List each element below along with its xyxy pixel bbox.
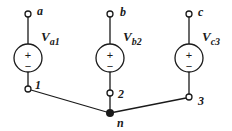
minus-sign-a: − bbox=[25, 60, 31, 72]
neutral-label: n bbox=[117, 116, 124, 130]
terminal-label-c: c bbox=[198, 5, 204, 19]
minus-sign-b: − bbox=[107, 60, 113, 72]
terminal-label-a: a bbox=[37, 4, 43, 18]
source-label-c: Vc3 bbox=[202, 29, 220, 47]
terminal-a-icon bbox=[25, 11, 31, 17]
terminal-c-icon bbox=[186, 11, 192, 17]
source-label-b: Vb2 bbox=[123, 29, 142, 47]
node-label-2: 2 bbox=[117, 87, 124, 101]
terminal-label-b: b bbox=[120, 5, 126, 19]
node-label-1: 1 bbox=[35, 78, 41, 92]
circuit-diagram: + − + − + − a b c Va1 Vb2 Vc3 1 2 3 n bbox=[0, 0, 232, 131]
neutral-node-icon bbox=[106, 109, 114, 117]
minus-sign-c: − bbox=[186, 60, 192, 72]
terminal-b-icon bbox=[107, 11, 113, 17]
wire-1-to-n bbox=[31, 90, 110, 113]
node-label-3: 3 bbox=[197, 94, 204, 108]
source-label-a: Va1 bbox=[41, 29, 60, 47]
node-2-icon bbox=[107, 90, 113, 96]
node-1-icon bbox=[25, 86, 31, 92]
node-3-icon bbox=[186, 94, 192, 100]
